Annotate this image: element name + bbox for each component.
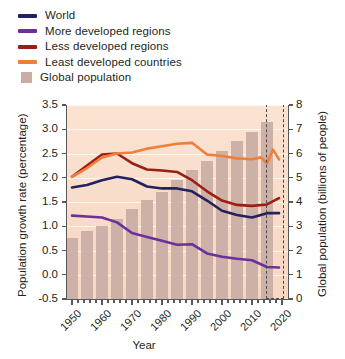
y-tick-label: 3.0 bbox=[24, 122, 58, 134]
y2-tick-label: 2 bbox=[296, 244, 314, 256]
y2-tick bbox=[289, 226, 293, 227]
y2-tick-label: 7 bbox=[296, 122, 314, 134]
y2-tick-label: 4 bbox=[296, 195, 314, 207]
legend-swatch-line-icon bbox=[18, 45, 37, 49]
x-axis-line bbox=[66, 299, 289, 300]
y2-tick bbox=[289, 298, 293, 299]
y-tick-label: 0.0 bbox=[24, 268, 58, 280]
y2-tick-label: 8 bbox=[296, 98, 314, 110]
legend-item-label: Least developed countries bbox=[45, 57, 182, 69]
x-tick bbox=[251, 300, 252, 305]
legend-item[interactable]: Less developed regions bbox=[18, 39, 182, 55]
x-minor-tick bbox=[179, 300, 180, 303]
y2-tick bbox=[289, 104, 293, 105]
x-tick-label: 1970 bbox=[111, 307, 144, 340]
y2-tick-label: 6 bbox=[296, 147, 314, 159]
x-minor-tick bbox=[197, 300, 198, 303]
y2-tick bbox=[289, 274, 293, 275]
y2-tick bbox=[289, 153, 293, 154]
legend-item-label: Global population bbox=[40, 72, 131, 84]
x-tick bbox=[281, 300, 282, 305]
x-minor-tick bbox=[173, 300, 174, 303]
x-tick-label: 1960 bbox=[81, 307, 114, 340]
figure-canvas: WorldMore developed regionsLess develope… bbox=[0, 0, 345, 359]
x-tick bbox=[101, 300, 102, 305]
y2-tick bbox=[289, 201, 293, 202]
y-tick-label: 1.5 bbox=[24, 195, 58, 207]
x-minor-tick bbox=[143, 300, 144, 303]
projection-box bbox=[266, 105, 284, 299]
x-minor-tick bbox=[89, 300, 90, 303]
y-tick bbox=[62, 153, 66, 154]
x-tick-label: 2020 bbox=[261, 307, 294, 340]
x-minor-tick bbox=[83, 300, 84, 303]
y2-tick-label: 5 bbox=[296, 171, 314, 183]
legend-item[interactable]: World bbox=[18, 8, 182, 24]
x-minor-tick bbox=[257, 300, 258, 303]
legend-item[interactable]: Global population bbox=[18, 70, 182, 86]
x-minor-tick bbox=[227, 300, 228, 303]
y-tick-label: 1.0 bbox=[24, 219, 58, 231]
y-tick bbox=[62, 274, 66, 275]
y-tick bbox=[62, 177, 66, 178]
legend-swatch-box-icon bbox=[21, 72, 32, 83]
x-minor-tick bbox=[167, 300, 168, 303]
x-tick-label: 1980 bbox=[141, 307, 174, 340]
x-tick bbox=[161, 300, 162, 305]
x-minor-tick bbox=[155, 300, 156, 303]
y-tick-label: 3.5 bbox=[24, 98, 58, 110]
x-tick bbox=[131, 300, 132, 305]
y-tick-label: -0.5 bbox=[24, 292, 58, 304]
line-series bbox=[72, 177, 279, 218]
x-tick-label: 2000 bbox=[201, 307, 234, 340]
y-tick bbox=[62, 226, 66, 227]
x-tick bbox=[71, 300, 72, 305]
x-minor-tick bbox=[263, 300, 264, 303]
y2-tick-label: 3 bbox=[296, 219, 314, 231]
x-minor-tick bbox=[209, 300, 210, 303]
y-tick-label: 0.5 bbox=[24, 244, 58, 256]
y2-tick bbox=[289, 177, 293, 178]
y2-axis-title: Global population (billions of people) bbox=[316, 111, 328, 297]
x-axis-title: Year bbox=[0, 339, 288, 351]
x-tick bbox=[191, 300, 192, 305]
legend-item[interactable]: Least developed countries bbox=[18, 55, 182, 71]
y-axis-title: Population growth rate (percentage) bbox=[16, 114, 28, 297]
legend-item-label: World bbox=[45, 10, 75, 22]
y-tick bbox=[62, 104, 66, 105]
y2-tick bbox=[289, 129, 293, 130]
x-tick-label: 1990 bbox=[171, 307, 204, 340]
x-minor-tick bbox=[275, 300, 276, 303]
legend-item[interactable]: More developed regions bbox=[18, 24, 182, 40]
x-minor-tick bbox=[95, 300, 96, 303]
x-minor-tick bbox=[245, 300, 246, 303]
x-minor-tick bbox=[233, 300, 234, 303]
y-tick bbox=[62, 250, 66, 251]
y-tick bbox=[62, 201, 66, 202]
x-minor-tick bbox=[107, 300, 108, 303]
y2-tick-label: 0 bbox=[296, 292, 314, 304]
x-minor-tick bbox=[137, 300, 138, 303]
legend-swatch-line-icon bbox=[18, 60, 37, 64]
x-minor-tick bbox=[185, 300, 186, 303]
line-series-group bbox=[66, 105, 288, 299]
legend-swatch-line-icon bbox=[18, 29, 37, 33]
y2-tick bbox=[289, 250, 293, 251]
y-tick-label: 2.0 bbox=[24, 171, 58, 183]
x-minor-tick bbox=[77, 300, 78, 303]
x-tick bbox=[221, 300, 222, 305]
chart-legend: WorldMore developed regionsLess develope… bbox=[18, 8, 182, 86]
x-minor-tick bbox=[269, 300, 270, 303]
y-tick bbox=[62, 129, 66, 130]
x-minor-tick bbox=[125, 300, 126, 303]
y-tick bbox=[62, 298, 66, 299]
legend-swatch-line-icon bbox=[18, 14, 37, 18]
legend-item-label: Less developed regions bbox=[45, 41, 169, 53]
y-axis-line bbox=[66, 105, 67, 300]
x-minor-tick bbox=[119, 300, 120, 303]
x-tick-label: 1950 bbox=[51, 307, 84, 340]
y-tick-label: 2.5 bbox=[24, 147, 58, 159]
y2-tick-label: 1 bbox=[296, 268, 314, 280]
plot-area bbox=[66, 105, 288, 299]
x-minor-tick bbox=[113, 300, 114, 303]
